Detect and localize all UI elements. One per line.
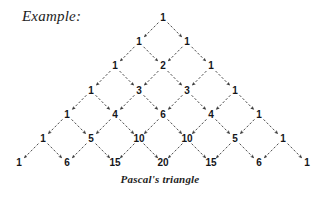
pascal-arrow [216, 71, 230, 85]
pascal-node-r4-k4: 1 [256, 110, 262, 120]
pascal-arrow [216, 144, 230, 158]
pascal-node-r5-k4: 5 [232, 134, 238, 144]
pascal-arrow [48, 119, 62, 133]
pascals-triangle-arrows [0, 0, 320, 198]
pascal-arrow [216, 95, 230, 109]
pascal-arrow [72, 95, 86, 109]
pascal-node-r2-k2: 1 [208, 61, 214, 71]
pascal-arrow [72, 144, 86, 158]
pascal-node-r3-k1: 3 [136, 86, 142, 96]
pascal-arrow [120, 95, 134, 109]
pascal-node-r1-k1: 1 [184, 37, 190, 47]
pascal-node-r5-k5: 1 [280, 134, 286, 144]
pascal-arrow [168, 47, 182, 61]
pascal-arrow [192, 95, 206, 109]
figure-page: Example: 1111211331146411510105116152015… [0, 0, 320, 198]
pascal-arrow [192, 47, 206, 61]
pascal-node-r2-k1: 2 [160, 61, 166, 71]
arrow-layer [24, 23, 301, 158]
pascal-arrow [192, 144, 206, 158]
pascal-arrow [240, 119, 254, 133]
pascal-arrow [96, 95, 110, 109]
pascal-arrow [120, 47, 134, 61]
pascal-node-r6-k2: 15 [109, 158, 120, 168]
pascal-arrow [120, 71, 134, 85]
pascal-node-r5-k0: 1 [40, 134, 46, 144]
pascal-node-r3-k2: 3 [184, 86, 190, 96]
pascal-node-r4-k0: 1 [64, 110, 70, 120]
pascal-arrow [240, 95, 254, 109]
pascal-node-r6-k5: 6 [256, 158, 262, 168]
pascal-node-r3-k0: 1 [88, 86, 94, 96]
pascal-arrow [192, 119, 206, 133]
pascal-node-r5-k2: 10 [133, 134, 144, 144]
pascal-arrow [120, 144, 134, 158]
pascal-node-r4-k2: 6 [160, 110, 166, 120]
pascal-node-r4-k1: 4 [112, 110, 118, 120]
pascal-arrow [240, 144, 254, 158]
pascal-arrow [288, 144, 302, 158]
pascal-arrow [144, 23, 158, 37]
pascal-arrow [120, 119, 134, 133]
pascal-node-r5-k3: 10 [181, 134, 192, 144]
pascal-arrow [144, 71, 158, 85]
pascal-arrow [96, 144, 110, 158]
pascal-arrow [168, 144, 182, 158]
pascal-node-r1-k0: 1 [136, 37, 142, 47]
pascal-arrow [144, 47, 158, 61]
pascal-arrow [48, 144, 62, 158]
pascal-arrow [144, 119, 158, 133]
pascal-arrow [168, 119, 182, 133]
pascal-arrow [168, 95, 182, 109]
pascal-arrow [144, 144, 158, 158]
pascal-node-r6-k6: 1 [304, 158, 310, 168]
pascal-node-r6-k1: 6 [64, 158, 70, 168]
pascal-arrow [72, 119, 86, 133]
pascal-arrow [96, 71, 110, 85]
pascal-arrow [216, 119, 230, 133]
pascal-arrow [168, 71, 182, 85]
pascal-node-r2-k0: 1 [112, 61, 118, 71]
pascal-arrow [24, 144, 38, 158]
pascal-arrow [144, 95, 158, 109]
pascal-node-r4-k3: 4 [208, 110, 214, 120]
pascal-node-r0-k0: 1 [160, 13, 166, 23]
pascal-node-r6-k4: 15 [205, 158, 216, 168]
pascal-node-r6-k0: 1 [16, 158, 22, 168]
figure-caption: Pascal's triangle [0, 173, 320, 185]
pascal-node-r6-k3: 20 [157, 158, 168, 168]
pascal-arrow [264, 119, 278, 133]
pascal-node-r3-k3: 1 [232, 86, 238, 96]
pascal-arrow [168, 23, 182, 37]
pascal-arrow [96, 119, 110, 133]
pascal-arrow [264, 144, 278, 158]
pascal-arrow [192, 71, 206, 85]
pascal-node-r5-k1: 5 [88, 134, 94, 144]
